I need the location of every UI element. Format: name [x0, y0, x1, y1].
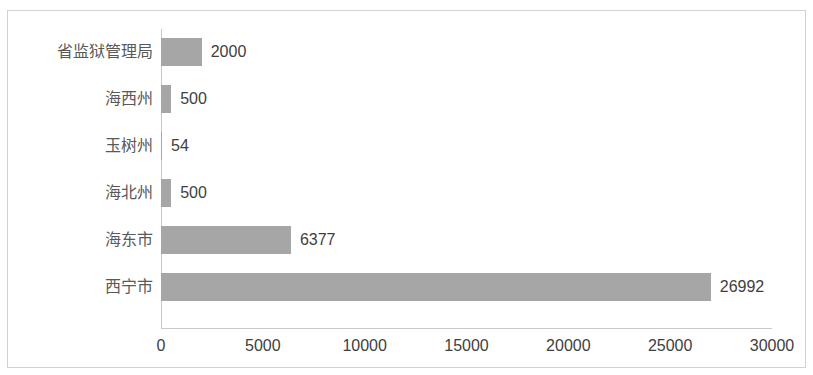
category-label: 西宁市: [3, 273, 161, 301]
category-label: 海北州: [3, 179, 161, 207]
bar-row: 海西州 500: [161, 76, 772, 123]
x-axis-tick-labels: 0 5000 10000 15000 20000 25000 30000: [161, 337, 772, 367]
bar-row: 玉树州 54: [161, 123, 772, 170]
value-axis-line: [161, 328, 772, 329]
bar: [161, 226, 291, 254]
plot-area: 省监狱管理局 2000 海西州 500 玉树州 54 海北州 500 海东市 6…: [161, 19, 772, 329]
bar-value-label: 500: [171, 85, 207, 113]
bar-row: 西宁市 26992: [161, 264, 772, 311]
chart-frame: 省监狱管理局 2000 海西州 500 玉树州 54 海北州 500 海东市 6…: [7, 10, 806, 368]
x-axis-tick: 15000: [444, 337, 489, 355]
category-label: 省监狱管理局: [3, 38, 161, 66]
bar-value-label: 54: [162, 132, 189, 160]
category-label: 玉树州: [3, 132, 161, 160]
bar-row: 海北州 500: [161, 170, 772, 217]
x-axis-tick: 30000: [750, 337, 795, 355]
bar-value-label: 2000: [202, 38, 247, 66]
bar: [161, 85, 171, 113]
bar-value-label: 6377: [291, 226, 336, 254]
x-axis-tick: 20000: [546, 337, 591, 355]
category-label: 海西州: [3, 85, 161, 113]
x-axis-tick: 0: [157, 337, 166, 355]
bar: [161, 273, 711, 301]
bar: [161, 179, 171, 207]
bar: [161, 38, 202, 66]
bar-value-label: 26992: [711, 273, 765, 301]
bar-row: 省监狱管理局 2000: [161, 29, 772, 76]
bar-row: 海东市 6377: [161, 217, 772, 264]
x-axis-tick: 25000: [648, 337, 693, 355]
x-axis-tick: 5000: [245, 337, 281, 355]
x-axis-tick: 10000: [342, 337, 387, 355]
bar-value-label: 500: [171, 179, 207, 207]
category-label: 海东市: [3, 226, 161, 254]
